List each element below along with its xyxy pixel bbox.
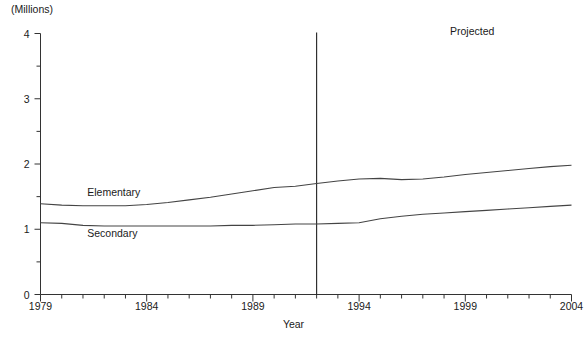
y-tick-label: 4	[24, 28, 30, 40]
x-tick-label: 1984	[135, 300, 158, 312]
chart-plot-area	[0, 0, 587, 337]
y-tick-label: 3	[24, 93, 30, 105]
x-tick-label: 1999	[454, 300, 477, 312]
series-line-secondary	[41, 205, 572, 226]
y-tick-label: 2	[24, 158, 30, 170]
y-tick-label: 1	[24, 223, 30, 235]
x-tick-label: 1989	[241, 300, 264, 312]
x-tick-label: 1979	[29, 300, 52, 312]
x-tick-label: 2004	[560, 300, 583, 312]
series-label-secondary: Secondary	[87, 227, 137, 239]
x-axis-title: Year	[0, 318, 587, 330]
y-tick-label: 0	[24, 289, 30, 301]
chart-container: (Millions) Projected 01234 1979198419891…	[0, 0, 587, 337]
x-tick-label: 1994	[347, 300, 370, 312]
series-label-elementary: Elementary	[87, 186, 140, 198]
